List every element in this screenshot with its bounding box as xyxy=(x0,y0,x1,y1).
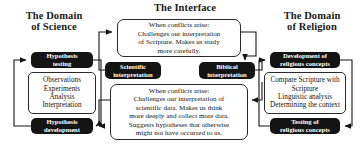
node-biblical-interpretation: Biblicalinterpretation xyxy=(199,62,255,79)
node-hypothesis-testing: Hypothesistesting xyxy=(31,52,93,68)
arrow-bottom-panel-to-hypothesis-dev xyxy=(96,100,110,126)
panel-conflicts-scientific-data: When conflicts arise:Challenges our inte… xyxy=(110,84,248,140)
diagram-canvas: The Domainof Science The Interface The D… xyxy=(0,0,364,164)
arrow-religion-to-bottom-panel xyxy=(252,82,262,100)
node-scientific-interpretation: Scientificinterpretation xyxy=(105,62,161,79)
panel-conflicts-scripture: When conflicts arise:Challenges our inte… xyxy=(117,19,241,57)
node-development-of-religious-concepts: Development ofreligious concepts xyxy=(270,52,340,68)
header-the-interface: The Interface xyxy=(112,2,258,13)
header-domain-of-science: The Domainof Science xyxy=(8,10,100,32)
arrow-top-panel-to-biblical xyxy=(241,32,256,60)
node-hypothesis-development: Hypothesisdevelopment xyxy=(31,118,93,134)
node-testing-of-religious-concepts: Testing ofreligious concepts xyxy=(270,118,340,134)
header-domain-of-religion: The Domainof Religion xyxy=(264,10,360,32)
arrow-biblical-to-religion xyxy=(255,60,265,70)
node-religion-methods: Compare Scripture withScriptureLinguisti… xyxy=(264,72,346,114)
node-science-methods: ObservationsExperimentsAnalysisInterpret… xyxy=(28,72,96,114)
